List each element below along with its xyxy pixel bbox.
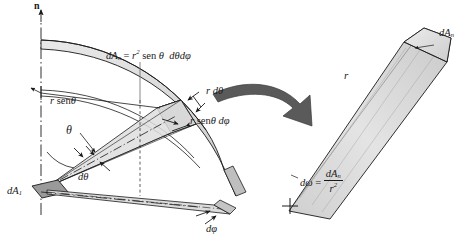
rstdphi-dphi: dφ	[219, 115, 230, 126]
label-cap-dA-n: dAn	[439, 28, 454, 39]
r-dtheta-theta: θ	[218, 85, 223, 96]
r-sin-theta-fn: sen	[57, 95, 71, 106]
rstdphi-theta: θ	[211, 115, 216, 126]
omega-formula-leader	[291, 175, 298, 178]
label-r-dtheta: r dθ	[206, 86, 223, 97]
omega-denominator: r2	[324, 181, 343, 194]
label-r-sin-theta-dphi: r senθ dφ	[190, 116, 230, 127]
horizontal-baseline	[41, 192, 198, 207]
figure-canvas: n dAn = r2 sen θ dθdφ r senθ r dθ r senθ…	[0, 0, 468, 247]
theta-label-leader	[80, 133, 95, 152]
r-sin-theta-theta: θ	[71, 95, 76, 106]
omega-den-exponent: 2	[334, 181, 337, 188]
r-dtheta-leader	[188, 92, 205, 112]
formula-lhs: dA	[106, 50, 118, 61]
label-dphi: dφ	[206, 224, 217, 235]
formula-dtheta: dθ	[169, 50, 179, 61]
cap-base: dA	[439, 27, 451, 38]
formula-r-exponent: 2	[136, 48, 139, 55]
dA1-sub: 1	[19, 189, 22, 196]
omega-num-base: dA	[326, 168, 338, 179]
omega-equals: =	[315, 177, 321, 188]
rstdphi-fn: sen	[197, 115, 211, 126]
omega-fraction: dAn r2	[324, 168, 343, 194]
r-sin-theta-r: r	[50, 95, 54, 106]
formula-dphi: dφ	[180, 50, 191, 61]
formula-equals: =	[124, 50, 130, 61]
dA1-base: dA	[7, 185, 19, 196]
r-dtheta-r: r	[206, 85, 210, 96]
rstdphi-r: r	[190, 115, 194, 126]
solid-angle-formula: dω = dAn r2	[300, 168, 343, 194]
cap-sub: n	[451, 31, 454, 38]
label-cone-radius: r	[344, 70, 348, 81]
label-dtheta: dθ	[78, 172, 88, 183]
omega-numerator: dAn	[324, 168, 343, 181]
differential-area-formula: dAn = r2 sen θ dθdφ	[106, 49, 191, 61]
theta-angle-arc	[47, 152, 74, 168]
omega-lhs: dω	[300, 177, 313, 188]
formula-sin-function: sen	[142, 50, 156, 61]
axis-label-n: n	[34, 1, 40, 11]
label-r-sin-theta: r senθ	[50, 96, 76, 107]
formula-theta: θ	[159, 50, 164, 61]
label-dA1: dA1	[7, 186, 22, 197]
label-theta: θ	[66, 124, 72, 136]
omega-num-sub: n	[338, 172, 341, 179]
formula-lhs-sub: n	[118, 54, 121, 61]
